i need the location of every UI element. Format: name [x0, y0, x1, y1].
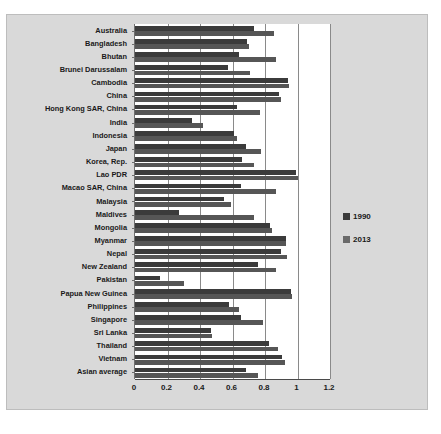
x-tick-label: 0	[132, 383, 136, 392]
bar-2013	[135, 347, 278, 352]
bar-2013	[135, 176, 298, 181]
bar-rows	[135, 24, 330, 379]
bar-row	[135, 287, 330, 300]
bar-2013	[135, 373, 258, 378]
bar-row	[135, 63, 330, 76]
bar-row	[135, 116, 330, 129]
category-label: Vietnam	[98, 355, 127, 363]
bar-1990	[135, 197, 224, 202]
bar-2013	[135, 202, 231, 207]
bar-1990	[135, 144, 246, 149]
x-axis-line	[135, 379, 330, 380]
bar-1990	[135, 289, 291, 294]
category-label: Asian average	[77, 368, 127, 376]
legend-swatch-1990-icon	[343, 213, 350, 220]
bar-2013	[135, 215, 254, 220]
bar-1990	[135, 184, 241, 189]
bar-1990	[135, 92, 279, 97]
category-label: Indonesia	[93, 132, 128, 140]
category-label: Pakistan	[97, 276, 127, 284]
bar-2013	[135, 334, 212, 339]
bar-2013	[135, 360, 285, 365]
bar-row	[135, 195, 330, 208]
bar-2013	[135, 149, 261, 154]
bar-1990	[135, 170, 296, 175]
bar-1990	[135, 236, 286, 241]
legend-label-2013: 2013	[353, 235, 371, 244]
category-label: China	[106, 92, 127, 100]
bar-row	[135, 103, 330, 116]
x-tick-label: 0.6	[226, 383, 237, 392]
bar-row	[135, 169, 330, 182]
category-label: Mongolia	[95, 224, 127, 232]
x-tick-label: 1.2	[323, 383, 334, 392]
bar-2013	[135, 57, 276, 62]
legend-item-1990[interactable]: 1990	[343, 211, 413, 221]
figure-caption	[10, 418, 430, 430]
bar-row	[135, 142, 330, 155]
bar-1990	[135, 131, 234, 136]
category-label: Macao SAR, China	[62, 184, 127, 192]
bar-row	[135, 300, 330, 313]
bar-2013	[135, 71, 250, 76]
category-label: Singapore	[91, 316, 127, 324]
bar-1990	[135, 249, 281, 254]
bar-2013	[135, 44, 249, 49]
category-label: Thailand	[97, 342, 127, 350]
bar-2013	[135, 228, 272, 233]
bar-row	[135, 37, 330, 50]
gridline	[330, 24, 331, 379]
bar-2013	[135, 189, 276, 194]
category-label: India	[110, 119, 127, 127]
bar-1990	[135, 39, 247, 44]
legend-label-1990: 1990	[353, 212, 371, 221]
plot-area	[134, 24, 331, 379]
bar-2013	[135, 110, 260, 115]
bar-2013	[135, 255, 287, 260]
bar-row	[135, 155, 330, 168]
category-label: Nepal	[107, 250, 127, 258]
bar-row	[135, 313, 330, 326]
bar-2013	[135, 136, 237, 141]
bar-2013	[135, 307, 239, 312]
bar-1990	[135, 315, 241, 320]
bar-row	[135, 90, 330, 103]
x-tick-label: 0.8	[258, 383, 269, 392]
chart-panel: AustraliaBangladeshBhutanBrunei Darussal…	[6, 14, 428, 410]
bar-1990	[135, 368, 246, 373]
bar-row	[135, 353, 330, 366]
chart-figure: AustraliaBangladeshBhutanBrunei Darussal…	[0, 0, 441, 434]
bar-2013	[135, 84, 289, 89]
category-label: New Zealand	[82, 263, 127, 271]
bar-row	[135, 208, 330, 221]
bar-1990	[135, 223, 270, 228]
bar-1990	[135, 105, 237, 110]
bar-1990	[135, 355, 282, 360]
category-label: Bhutan	[102, 53, 127, 61]
bar-2013	[135, 31, 274, 36]
bar-2013	[135, 294, 292, 299]
bar-1990	[135, 341, 269, 346]
category-axis-labels: AustraliaBangladeshBhutanBrunei Darussal…	[15, 24, 131, 379]
bar-2013	[135, 241, 286, 246]
legend-item-2013[interactable]: 2013	[343, 234, 413, 244]
bar-1990	[135, 328, 211, 333]
category-label: Papua New Guinea	[60, 290, 127, 298]
bar-2013	[135, 97, 281, 102]
bar-row	[135, 366, 330, 379]
x-tick-label: 0.4	[193, 383, 204, 392]
x-tick-label: 1	[294, 383, 298, 392]
x-tick-label: 0.2	[161, 383, 172, 392]
bar-row	[135, 326, 330, 339]
bar-1990	[135, 78, 288, 83]
bar-row	[135, 340, 330, 353]
bar-1990	[135, 276, 160, 281]
bar-row	[135, 50, 330, 63]
bar-row	[135, 77, 330, 90]
bar-1990	[135, 262, 258, 267]
bar-2013	[135, 320, 263, 325]
category-label: Myanmar	[95, 237, 127, 245]
legend-swatch-2013-icon	[343, 236, 350, 243]
bar-1990	[135, 118, 192, 123]
bar-2013	[135, 281, 184, 286]
